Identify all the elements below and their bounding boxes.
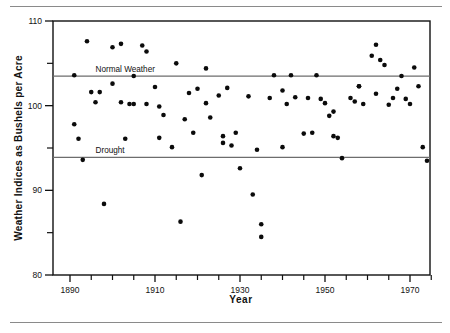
data-point (76, 136, 81, 141)
data-point (238, 166, 243, 171)
data-point (259, 235, 264, 240)
data-point (72, 122, 77, 127)
data-point (280, 88, 285, 93)
data-point (144, 49, 149, 54)
data-point (174, 61, 179, 66)
data-point (357, 84, 362, 89)
reference-line-labels: Normal WeatherDrought (96, 65, 156, 155)
data-point (110, 81, 115, 86)
data-point (182, 117, 187, 122)
data-point (119, 100, 124, 105)
data-point (80, 158, 85, 163)
data-point (361, 102, 366, 107)
data-point (216, 93, 221, 98)
x-tick-label-1950: 1950 (316, 285, 335, 295)
data-point (399, 74, 404, 79)
data-point (323, 101, 328, 106)
data-point (153, 85, 158, 90)
x-axis-ticks (70, 275, 431, 282)
data-point (395, 86, 400, 91)
data-point (119, 42, 124, 47)
chart-svg: 18901910193019501970 8090100110 Normal W… (0, 0, 450, 333)
data-point (157, 136, 162, 141)
x-axis-title: Year (229, 294, 253, 305)
data-point (272, 73, 277, 78)
data-point (131, 74, 136, 79)
data-point (204, 66, 209, 71)
data-point (157, 104, 162, 109)
data-point (408, 102, 413, 107)
data-point (352, 99, 357, 104)
data-point (102, 202, 107, 207)
reference-lines-group (53, 76, 430, 157)
x-tick-label-1970: 1970 (401, 285, 420, 295)
x-tick-label-1910: 1910 (146, 285, 165, 295)
data-point (191, 130, 196, 135)
data-point (170, 145, 175, 150)
data-point (310, 130, 315, 135)
data-point (340, 156, 345, 161)
data-point (110, 45, 115, 50)
data-point (221, 141, 226, 146)
data-point (369, 53, 374, 58)
data-point (335, 136, 340, 141)
data-point (89, 90, 94, 95)
data-point (412, 65, 417, 70)
data-point (382, 63, 387, 68)
data-point (229, 143, 234, 148)
data-point (85, 39, 90, 44)
data-point (225, 86, 230, 91)
data-point (221, 134, 226, 139)
data-point (289, 73, 294, 78)
data-point (178, 219, 183, 224)
data-point (420, 145, 425, 150)
y-tick-label-80: 80 (33, 270, 43, 280)
data-point (293, 95, 298, 100)
data-point (140, 43, 145, 48)
data-point (280, 145, 285, 150)
data-point (123, 136, 128, 141)
data-point (284, 102, 289, 107)
data-point (208, 115, 213, 120)
data-point (127, 102, 132, 107)
y-tick-label-90: 90 (33, 185, 43, 195)
data-point (187, 91, 192, 96)
data-point (416, 84, 421, 89)
data-point (161, 113, 166, 118)
data-point (195, 86, 200, 91)
y-axis-ticks (45, 21, 53, 275)
data-point (259, 222, 264, 227)
data-point (331, 109, 336, 114)
y-tick-label-100: 100 (28, 101, 42, 111)
data-point (378, 58, 383, 63)
y-axis-title: Weather Indices as Bushels per Acre (13, 55, 24, 241)
x-tick-label-1890: 1890 (61, 285, 80, 295)
y-tick-label-110: 110 (28, 16, 42, 26)
data-point (97, 90, 102, 95)
data-point (255, 147, 260, 152)
data-point (318, 97, 323, 102)
data-point (327, 114, 332, 119)
data-point (386, 103, 391, 108)
data-point (314, 73, 319, 78)
data-point (348, 96, 353, 101)
figure-container: 18901910193019501970 8090100110 Normal W… (0, 0, 450, 333)
data-point (331, 134, 336, 139)
data-point (93, 100, 98, 105)
data-point (301, 131, 306, 136)
data-point (233, 130, 238, 135)
data-point (391, 96, 396, 101)
data-point (72, 73, 77, 78)
data-point (374, 42, 379, 47)
data-point (204, 101, 209, 106)
reference-label-drought: Drought (96, 146, 126, 155)
data-point (250, 192, 255, 197)
data-point (267, 96, 272, 101)
y-axis-tick-labels: 8090100110 (28, 16, 42, 280)
data-point (246, 94, 251, 99)
data-point (425, 158, 430, 163)
scatter-plot: 18901910193019501970 8090100110 Normal W… (0, 0, 450, 333)
data-point (144, 102, 149, 107)
data-point (374, 92, 379, 97)
reference-label-normal-weather: Normal Weather (96, 65, 156, 74)
